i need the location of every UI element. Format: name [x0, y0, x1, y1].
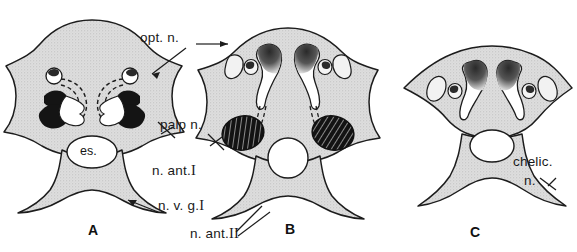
panel-c-chelic-tick — [548, 178, 556, 186]
label-nerve-antenna-2: n. ant.II — [190, 226, 239, 241]
label-nvg-text: n. v. g. — [158, 198, 199, 213]
label-nerve-antenna-2-numeral: II — [229, 225, 239, 241]
label-nerve-antenna-1: n. ant.I — [152, 163, 196, 178]
panel-b-central-circle — [268, 138, 308, 178]
panel-b-nant2-leader-b — [238, 212, 270, 236]
label-nerve-antenna-2-text: n. ant. — [190, 226, 229, 241]
panel-letter-b: B — [285, 221, 296, 237]
panel-c-drawing — [404, 46, 572, 206]
figure-drawing — [0, 0, 577, 252]
anatomy-figure: opt. n. palp n. n. ant.I n. v. g.I n. an… — [0, 0, 577, 252]
label-optic-nerve: opt. n. — [140, 31, 179, 45]
panel-b-optic-arrowhead — [220, 41, 228, 47]
panel-a-drawing — [4, 20, 186, 213]
label-nerve-ventral-ganglion-1: n. v. g.I — [158, 198, 204, 213]
label-chelicera-nerve-line1: chelic. — [513, 155, 553, 169]
label-esophagus: es. — [80, 144, 97, 158]
label-nerve-antenna-1-numeral: I — [191, 162, 196, 178]
label-palp-nerve: palp n. — [160, 118, 202, 132]
label-chelicera-nerve-line2: n. — [524, 174, 536, 188]
panel-letter-c: C — [470, 224, 481, 240]
panel-b-drawing — [196, 28, 380, 236]
panel-c-lower-oval — [470, 130, 514, 162]
panel-letter-a: A — [88, 222, 99, 238]
label-nvg-numeral: I — [199, 197, 204, 213]
label-nerve-antenna-1-text: n. ant. — [152, 163, 191, 178]
